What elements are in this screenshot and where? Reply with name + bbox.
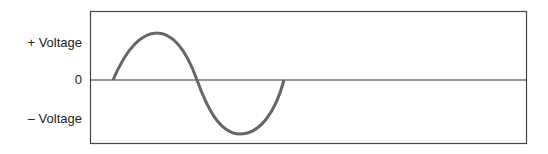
plot-frame	[91, 12, 527, 144]
sine-wave-diagram	[0, 0, 548, 154]
sine-wave	[113, 33, 284, 134]
